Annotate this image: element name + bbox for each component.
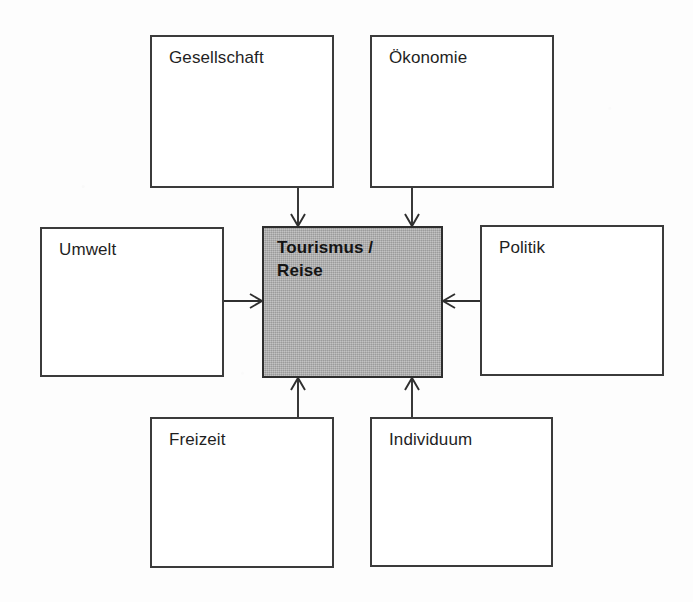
arrow-umwelt-to-center — [224, 294, 262, 308]
arrow-freizeit-to-center — [291, 378, 305, 417]
arrow-politik-to-center — [443, 294, 480, 308]
node-oekonomie-label: Ökonomie — [389, 47, 467, 69]
node-politik: Politik — [480, 225, 664, 376]
node-freizeit-label: Freizeit — [169, 429, 226, 451]
node-umwelt: Umwelt — [40, 227, 224, 377]
node-individuum: Individuum — [370, 417, 553, 567]
diagram-canvas: Gesellschaft Ökonomie Umwelt Tourismus /… — [0, 0, 693, 602]
node-freizeit: Freizeit — [150, 417, 334, 568]
node-politik-label: Politik — [499, 237, 545, 259]
node-tourismus-reise-label: Tourismus / Reise — [277, 236, 373, 282]
node-individuum-label: Individuum — [389, 429, 472, 451]
arrow-individuum-to-center — [405, 378, 419, 417]
arrow-gesellschaft-to-center — [291, 188, 305, 226]
node-oekonomie: Ökonomie — [370, 35, 554, 188]
node-gesellschaft-label: Gesellschaft — [169, 47, 264, 69]
arrow-oekonomie-to-center — [405, 188, 419, 226]
node-tourismus-reise: Tourismus / Reise — [262, 226, 443, 378]
node-umwelt-label: Umwelt — [59, 239, 116, 261]
node-gesellschaft: Gesellschaft — [150, 35, 334, 188]
